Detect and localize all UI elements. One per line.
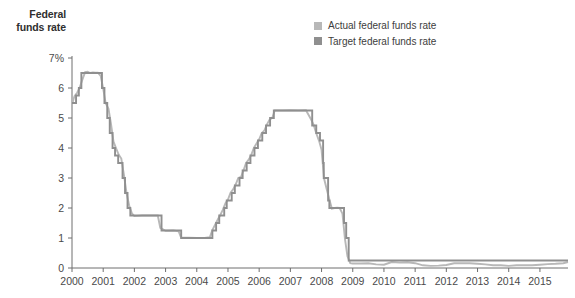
series-line bbox=[72, 72, 568, 266]
chart-container: Federal funds rate Actual federal funds … bbox=[0, 0, 575, 298]
plot-area bbox=[0, 0, 575, 298]
series-line bbox=[72, 73, 568, 261]
